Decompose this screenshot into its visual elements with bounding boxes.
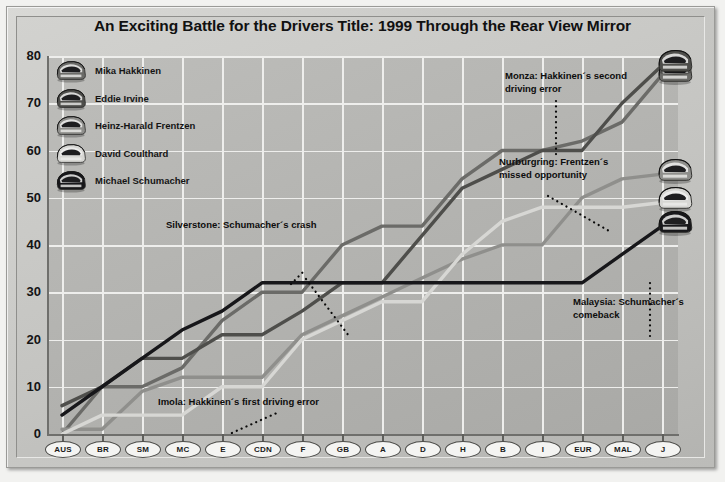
- annotation-malaysia: Malaysia: Schumacher´s comeback: [573, 296, 684, 321]
- annotation-silverstone-line1: Silverstone: Schumacher´s crash: [166, 219, 316, 232]
- x-tick-mark: [422, 434, 424, 441]
- series-line-heinz-harald-frentzen: [62, 174, 662, 429]
- helmet-icon: [55, 87, 87, 111]
- annotation-silverstone: Silverstone: Schumacher´s crash: [166, 219, 316, 232]
- x-tick-mark: [142, 434, 144, 441]
- helmet-icon: [55, 114, 87, 138]
- annotation-monza: Monza: Hakkinen´s second driving error: [505, 70, 627, 95]
- end-helmet-icon: [656, 48, 694, 75]
- chart-title: An Exciting Battle for the Drivers Title…: [0, 17, 725, 35]
- legend-item-michael-schumacher: Michael Schumacher: [55, 168, 255, 196]
- y-tick-label: 50: [1, 190, 41, 205]
- x-tick-badge-f: F: [285, 441, 321, 458]
- x-tick-mark: [262, 434, 264, 441]
- legend: Mika HakkinenEddie IrvineHeinz-Harald Fr…: [55, 58, 255, 196]
- x-tick-mark: [542, 434, 544, 441]
- x-tick-badge-br: BR: [85, 441, 121, 458]
- helmet-icon: [55, 59, 87, 83]
- y-tick-label: 10: [1, 379, 41, 394]
- x-tick-badge-mal: MAL: [605, 441, 641, 458]
- annotation-imola: Imola: Hakkinen´s first driving error: [158, 396, 319, 409]
- x-tick-mark: [62, 434, 64, 441]
- x-tick-badge-e: E: [205, 441, 241, 458]
- annotation-nurburgring: Nurburgring: Frentzen´s missed opportuni…: [499, 156, 608, 181]
- x-tick-mark: [502, 434, 504, 441]
- x-tick-mark: [662, 434, 664, 441]
- x-tick-badge-j: J: [645, 441, 681, 458]
- x-tick-mark: [222, 434, 224, 441]
- legend-item-label: Mika Hakkinen: [95, 65, 161, 76]
- annotation-malaysia-line1: Malaysia: Schumacher´s: [573, 296, 684, 309]
- x-tick-mark: [582, 434, 584, 441]
- legend-item-label: David Coulthard: [95, 148, 168, 159]
- legend-item-label: Heinz-Harald Frentzen: [95, 120, 195, 131]
- x-tick-badge-gb: GB: [325, 441, 361, 458]
- x-tick-mark: [462, 434, 464, 441]
- annotation-nurburgring-line2: missed opportunity: [499, 169, 608, 182]
- y-tick-label: 20: [1, 332, 41, 347]
- annotation-monza-line1: Monza: Hakkinen´s second: [505, 70, 627, 83]
- x-tick-badge-d: D: [405, 441, 441, 458]
- annotation-imola-line1: Imola: Hakkinen´s first driving error: [158, 396, 319, 409]
- annotation-monza-line2: driving error: [505, 83, 627, 96]
- x-tick-badge-mc: MC: [165, 441, 201, 458]
- legend-item-heinz-harald-frentzen: Heinz-Harald Frentzen: [55, 113, 255, 141]
- end-helmet-icon: [656, 209, 694, 236]
- legend-item-label: Michael Schumacher: [95, 175, 190, 186]
- x-tick-mark: [622, 434, 624, 441]
- x-tick-mark: [102, 434, 104, 441]
- y-tick-label: 40: [1, 237, 41, 252]
- y-tick-label: 30: [1, 284, 41, 299]
- y-tick-label: 0: [1, 426, 41, 441]
- x-tick-badge-b: B: [485, 441, 521, 458]
- x-tick-mark: [342, 434, 344, 441]
- legend-item-david-coulthard: David Coulthard: [55, 141, 255, 169]
- helmet-icon: [55, 169, 87, 193]
- x-tick-badge-a: A: [365, 441, 401, 458]
- annotation-malaysia-line2: comeback: [573, 309, 684, 322]
- legend-item-mika-hakkinen: Mika Hakkinen: [55, 58, 255, 86]
- x-tick-badge-sm: SM: [125, 441, 161, 458]
- annotation-nurburgring-line1: Nurburgring: Frentzen´s: [499, 156, 608, 169]
- x-tick-badge-aus: AUS: [45, 441, 81, 458]
- x-tick-badge-cdn: CDN: [245, 441, 281, 458]
- legend-item-label: Eddie Irvine: [95, 93, 149, 104]
- legend-item-eddie-irvine: Eddie Irvine: [55, 86, 255, 114]
- x-tick-mark: [382, 434, 384, 441]
- x-tick-mark: [302, 434, 304, 441]
- helmet-icon: [55, 142, 87, 166]
- y-tick-label: 60: [1, 143, 41, 158]
- chart-page: An Exciting Battle for the Drivers Title…: [0, 0, 725, 482]
- end-helmet-icon: [656, 157, 694, 184]
- y-tick-label: 70: [1, 95, 41, 110]
- x-tick-badge-i: I: [525, 441, 561, 458]
- y-tick-label: 80: [1, 48, 41, 63]
- x-tick-mark: [182, 434, 184, 441]
- x-tick-badge-h: H: [445, 441, 481, 458]
- x-tick-badge-eur: EUR: [565, 441, 601, 458]
